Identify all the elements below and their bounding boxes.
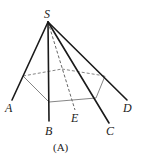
lateral-edges	[12, 22, 127, 123]
label-E: E	[70, 111, 79, 125]
label-B: B	[45, 124, 53, 138]
figure-caption: (A)	[53, 141, 69, 154]
edge-SB	[48, 22, 49, 121]
label-C: C	[106, 124, 115, 138]
pyramid-diagram: S A B C D E (A)	[0, 0, 164, 161]
label-S: S	[44, 7, 50, 21]
section-edge-back-left	[23, 69, 62, 76]
section-edge-right-front	[96, 76, 105, 98]
section-edge-bottom	[49, 98, 96, 102]
edge-SA	[12, 22, 48, 100]
label-D: D	[122, 101, 132, 115]
section-edge-left-front	[23, 76, 49, 102]
label-A: A	[4, 101, 13, 115]
